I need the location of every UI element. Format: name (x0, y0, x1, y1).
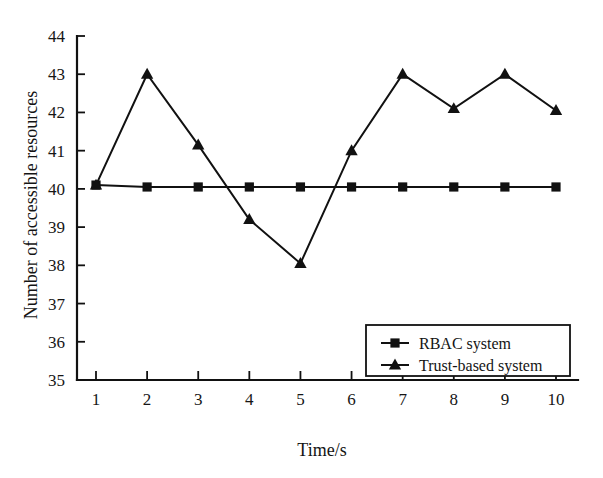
y-tick-label: 35 (48, 371, 65, 390)
data-point-marker-square (398, 182, 407, 191)
y-tick-label: 41 (48, 142, 65, 161)
x-axis-title: Time/s (297, 440, 346, 460)
y-tick-label: 37 (48, 295, 66, 314)
x-axis-tick-labels: 12345678910 (92, 390, 565, 409)
data-point-marker-triangle (499, 68, 511, 79)
y-tick-label: 42 (48, 103, 65, 122)
y-axis-ticks (77, 36, 85, 380)
y-tick-label: 44 (48, 27, 66, 46)
data-point-marker-square (551, 182, 560, 191)
series-triangle (90, 68, 562, 268)
y-tick-label: 40 (48, 180, 65, 199)
data-point-marker-square (194, 182, 203, 191)
x-tick-label: 9 (501, 390, 510, 409)
data-point-marker-square (500, 182, 509, 191)
data-point-marker-square (245, 182, 254, 191)
x-tick-label: 10 (548, 390, 565, 409)
series-line (96, 185, 556, 187)
y-tick-label: 39 (48, 218, 65, 237)
x-tick-label: 8 (450, 390, 459, 409)
data-point-marker-square (347, 182, 356, 191)
data-point-marker-square (449, 182, 458, 191)
data-point-marker-triangle (141, 68, 153, 79)
data-point-marker-square (143, 182, 152, 191)
data-point-marker-square (390, 338, 399, 347)
y-tick-label: 36 (48, 333, 65, 352)
x-tick-label: 5 (296, 390, 305, 409)
x-tick-label: 6 (347, 390, 356, 409)
x-tick-label: 2 (143, 390, 152, 409)
x-tick-label: 4 (245, 390, 254, 409)
data-point-marker-triangle (448, 102, 460, 113)
chart-legend: RBAC systemTrust-based system (366, 325, 570, 376)
y-axis-tick-labels: 35363738394041424344 (48, 27, 66, 390)
series-square (91, 180, 560, 191)
chart-canvas: 35363738394041424344 12345678910 Time/s … (0, 0, 603, 478)
legend-label: RBAC system (419, 335, 512, 353)
chart-figure: 35363738394041424344 12345678910 Time/s … (0, 0, 603, 478)
x-tick-label: 3 (194, 390, 203, 409)
data-point-marker-triangle (550, 104, 562, 115)
y-tick-label: 38 (48, 256, 65, 275)
y-tick-label: 43 (48, 65, 65, 84)
data-point-marker-square (296, 182, 305, 191)
data-point-marker-triangle (397, 68, 409, 79)
x-tick-label: 1 (92, 390, 101, 409)
legend-label: Trust-based system (419, 357, 543, 375)
series-line (96, 74, 556, 263)
series-group (90, 68, 562, 268)
x-tick-label: 7 (398, 390, 407, 409)
y-axis-title: Number of accessible resources (21, 91, 41, 319)
